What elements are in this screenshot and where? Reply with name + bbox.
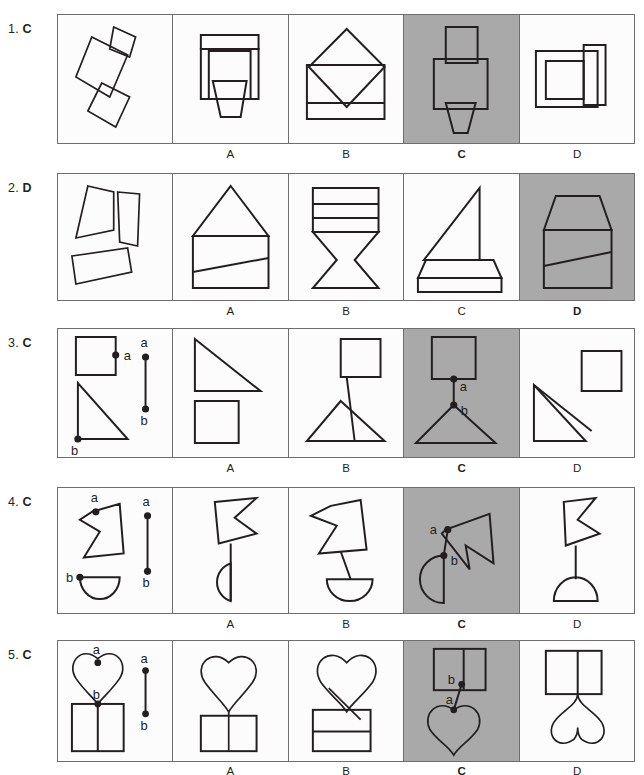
point-b-label: b	[93, 687, 100, 702]
point-a-dot	[94, 659, 101, 666]
row-2-answer: D	[23, 181, 32, 195]
row-5-stimulus-caption	[57, 765, 173, 775]
question-row-1: 1. C	[0, 14, 644, 162]
ref-point-b-dot	[144, 568, 151, 575]
row-2-option-b-panel[interactable]	[289, 174, 404, 300]
row-1-stimulus-panel[interactable]	[58, 15, 173, 143]
row-2-stimulus-figure	[58, 174, 172, 300]
row-1-label-c: C	[404, 148, 520, 160]
ref-label-a: a	[141, 651, 149, 666]
row-3-panels: a b a b	[57, 328, 635, 458]
row-2-option-d-panel[interactable]	[520, 174, 634, 300]
row-2-option-d-figure	[520, 174, 634, 300]
ref-label-a: a	[141, 335, 149, 350]
point-b-label: b	[71, 443, 78, 457]
row-5-option-d-figure	[520, 641, 634, 761]
row-3-stimulus-caption	[57, 462, 173, 474]
row-1-stimulus-caption	[57, 148, 173, 160]
ref-label-b: b	[141, 413, 148, 428]
row-5-option-a-panel[interactable]	[173, 641, 288, 761]
row-1-number: 1.	[8, 22, 19, 36]
row-5-option-labels: A B C D	[57, 765, 635, 775]
row-4-option-c-panel[interactable]: a b	[404, 488, 519, 613]
row-3-stimulus-figure: a b a b	[58, 329, 172, 457]
ref-point-b-dot	[142, 710, 149, 717]
point-a-label: a	[446, 692, 454, 707]
row-3-option-a-figure	[173, 329, 287, 457]
row-2-label-a: A	[173, 305, 289, 317]
row-5-option-b-panel[interactable]	[289, 641, 404, 761]
row-3-label-a: A	[173, 462, 289, 474]
row-3-stimulus-panel[interactable]: a b a b	[58, 329, 173, 457]
row-5-label-c: C	[404, 765, 520, 775]
row-3-answer: C	[23, 336, 32, 350]
row-1-option-b-panel[interactable]	[289, 15, 404, 143]
row-1-label-b: B	[288, 148, 404, 160]
test-sheet: 1. C	[0, 0, 644, 775]
row-5-option-c-panel[interactable]: b a	[404, 641, 519, 761]
row-2-option-b-figure	[289, 174, 403, 300]
row-4-option-a-figure	[173, 488, 287, 613]
row-4-stimulus-panel[interactable]: a b a b	[58, 488, 173, 613]
row-1-option-c-panel[interactable]	[404, 15, 519, 143]
ref-point-a-dot	[144, 512, 151, 519]
row-4-stimulus-figure: a b a b	[58, 488, 172, 613]
row-1-panels	[57, 14, 635, 144]
row-1-answer: C	[23, 22, 32, 36]
row-5-stimulus-panel[interactable]: a b a b	[58, 641, 173, 761]
row-4-option-a-panel[interactable]	[173, 488, 288, 613]
question-row-3: 3. C a b a b	[0, 328, 644, 478]
row-1-option-c-figure	[404, 15, 518, 143]
row-5-label-d: D	[519, 765, 635, 775]
row-4-label-c: C	[404, 618, 520, 630]
row-2-panels	[57, 173, 635, 301]
point-a-label: a	[93, 642, 101, 657]
row-3-option-d-panel[interactable]	[520, 329, 634, 457]
row-2-stimulus-panel[interactable]	[58, 174, 173, 300]
point-b-label: b	[461, 403, 468, 418]
ref-point-a-dot	[142, 353, 149, 360]
row-3-option-c-figure: a b	[404, 329, 518, 457]
row-4-panels: a b a b	[57, 487, 635, 614]
row-5-panels: a b a b	[57, 640, 635, 762]
row-2-option-c-figure	[404, 174, 518, 300]
point-a-dot	[92, 508, 99, 515]
row-2-option-a-figure	[173, 174, 287, 300]
row-1-label-d: D	[519, 148, 635, 160]
ref-label-b: b	[141, 718, 148, 733]
row-2-option-c-panel[interactable]	[404, 174, 519, 300]
row-5-number: 5.	[8, 648, 19, 662]
row-3-label-b: B	[288, 462, 404, 474]
ref-label-b: b	[143, 575, 150, 590]
row-5-option-d-panel[interactable]	[520, 641, 634, 761]
row-4-option-b-panel[interactable]	[289, 488, 404, 613]
point-b-dot	[76, 574, 83, 581]
question-row-2: 2. D	[0, 173, 644, 321]
row-4-option-d-panel[interactable]	[520, 488, 634, 613]
point-b-label: b	[448, 672, 455, 687]
row-3-option-b-figure	[289, 329, 403, 457]
point-a-dot	[450, 375, 457, 382]
row-1-option-a-figure	[173, 15, 287, 143]
point-b-label: b	[451, 553, 458, 568]
row-4-option-d-figure	[520, 488, 634, 613]
row-1-option-a-panel[interactable]	[173, 15, 288, 143]
row-2-option-a-panel[interactable]	[173, 174, 288, 300]
row-3-label-d: D	[519, 462, 635, 474]
row-5-label: 5. C	[8, 648, 32, 662]
ref-point-b-dot	[142, 405, 149, 412]
row-2-label-d: D	[519, 305, 635, 317]
row-5-answer: C	[23, 648, 32, 662]
point-a-label: a	[430, 522, 438, 537]
row-2-label: 2. D	[8, 181, 32, 195]
row-4-label-a: A	[173, 618, 289, 630]
point-b-dot	[440, 552, 447, 559]
row-3-option-c-panel[interactable]: a b	[404, 329, 519, 457]
row-3-option-a-panel[interactable]	[173, 329, 288, 457]
row-4-answer: C	[23, 495, 32, 509]
point-b-dot	[450, 401, 457, 408]
row-1-option-d-panel[interactable]	[520, 15, 634, 143]
row-3-option-b-panel[interactable]	[289, 329, 404, 457]
question-row-4: 4. C a b a b	[0, 487, 644, 635]
point-a-label: a	[460, 379, 468, 394]
